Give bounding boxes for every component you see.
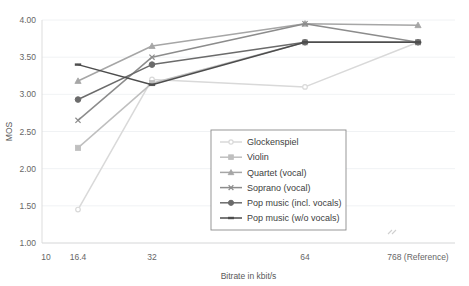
data-point-marker: [149, 62, 155, 68]
series-3: [75, 21, 420, 123]
y-tick-label: 4.00: [19, 15, 36, 25]
line-chart: 1.001.502.002.503.003.504.00MOS1016.4326…: [0, 0, 469, 286]
legend-label: Quartet (vocal): [247, 168, 307, 178]
data-point-marker: [303, 85, 308, 90]
data-point-marker: [229, 140, 233, 144]
x-tick-label: 10: [41, 252, 51, 262]
data-point-marker: [75, 97, 81, 103]
x-tick-label: 64: [300, 252, 310, 262]
data-point-marker: [75, 118, 80, 123]
legend-label: Violin: [247, 152, 269, 162]
series-5: [75, 42, 421, 84]
series-2: [75, 21, 421, 84]
y-tick-label: 2.00: [19, 164, 36, 174]
series-line: [78, 42, 418, 84]
legend-label: Glockenspiel: [247, 137, 299, 147]
y-tick-label: 3.50: [19, 52, 36, 62]
y-tick-label: 1.00: [19, 238, 36, 248]
x-axis-tick-labels: 1016.43264768 (Reference): [41, 252, 449, 262]
data-point-marker: [76, 207, 81, 212]
legend-label: Pop music (w/o vocals): [247, 213, 340, 223]
series-4: [75, 40, 421, 103]
x-tick-label: 16.4: [70, 252, 87, 262]
y-tick-label: 3.00: [19, 89, 36, 99]
y-tick-label: 2.50: [19, 127, 36, 137]
data-point-marker: [229, 155, 234, 160]
axis-break-marker: [388, 230, 396, 234]
data-point-marker: [75, 145, 80, 150]
x-tick-label: 32: [147, 252, 157, 262]
legend-label: Soprano (vocal): [247, 183, 311, 193]
legend-label: Pop music (incl. vocals): [247, 198, 342, 208]
y-axis-title: MOS: [4, 121, 14, 141]
x-axis-title: Bitrate in kbit/s: [221, 271, 277, 281]
series-line: [78, 42, 418, 99]
y-tick-label: 1.50: [19, 201, 36, 211]
series-line: [78, 24, 418, 81]
chart-container: 1.001.502.002.503.003.504.00MOS1016.4326…: [0, 0, 469, 286]
y-axis-tick-labels: 1.001.502.002.503.003.504.00: [19, 15, 36, 248]
series-line: [78, 24, 418, 121]
data-point-marker: [228, 200, 233, 205]
legend: GlockenspielViolinQuartet (vocal)Soprano…: [211, 130, 346, 230]
x-tick-label: 768 (Reference): [387, 252, 449, 262]
